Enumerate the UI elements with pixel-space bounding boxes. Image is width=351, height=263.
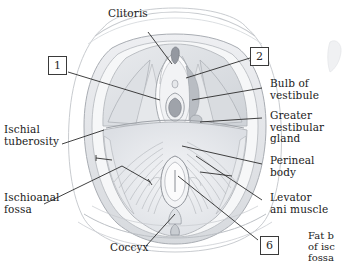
callout-box-6[interactable]: 6 [260,236,279,255]
urethral-opening [172,80,178,88]
label-clitoris: Clitoris [108,8,148,20]
callout-box-1[interactable]: 1 [48,56,67,75]
figure-page: Clitoris Bulb of vestibule Greater vesti… [0,0,351,263]
callout-box-2[interactable]: 2 [250,47,269,66]
vaginal-orifice [169,98,182,117]
label-fat-body-clipped: Fat b of isc fossa [308,230,351,263]
label-coccyx: Coccyx [110,242,149,254]
label-bulb-of-vestibule: Bulb of vestibule [270,78,319,101]
label-ischioanal-fossa: Ischioanal fossa [4,192,60,215]
label-perineal-body: Perineal body [270,155,315,178]
label-ischial-tuberosity: Ischial tuberosity [4,124,59,147]
label-greater-vestibular-gland: Greater vestibular gland [270,110,324,145]
label-levator-ani-muscle: Levator ani muscle [270,192,328,215]
edge-partial-structure [328,41,341,72]
